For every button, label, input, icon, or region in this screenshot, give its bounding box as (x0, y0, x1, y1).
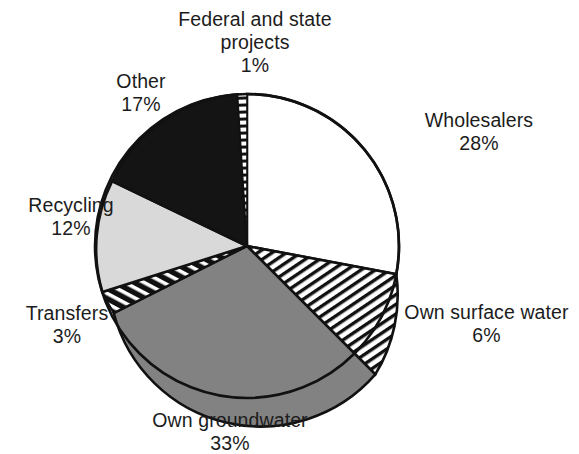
pie-label-wholesalers-name: Wholesalers (390, 109, 568, 132)
pie-label-recycling-name: Recycling (0, 194, 142, 217)
pie-label-recycling-value: 12% (0, 217, 142, 240)
pie-label-federal-line1: Federal and state (165, 8, 345, 31)
pie-label-federal-line2: projects (165, 31, 345, 54)
pie-slice-wholesalers[interactable] (247, 94, 399, 274)
pie-label-wholesalers: Wholesalers 28% (390, 109, 568, 155)
pie-label-own-surface-water: Own surface water 6% (394, 301, 579, 347)
pie-label-transfers-name: Transfers (0, 302, 134, 325)
pie-label-other: Other 17% (86, 70, 196, 116)
pie-label-transfers-value: 3% (0, 325, 134, 348)
pie-label-groundwater-name: Own groundwater (94, 409, 366, 432)
pie-label-recycling: Recycling 12% (0, 194, 142, 240)
pie-label-surface-name: Own surface water (394, 301, 579, 324)
pie-label-groundwater-value: 33% (94, 432, 366, 454)
pie-label-wholesalers-value: 28% (390, 132, 568, 155)
pie-label-own-groundwater: Own groundwater 33% (94, 409, 366, 454)
pie-label-surface-value: 6% (394, 324, 579, 347)
pie-label-federal-and-state-projects: Federal and state projects 1% (165, 8, 345, 77)
pie-label-other-name: Other (86, 70, 196, 93)
pie-label-other-value: 17% (86, 93, 196, 116)
pie-chart-figure: Federal and state projects 1% Other 17% … (0, 0, 579, 454)
pie-label-transfers: Transfers 3% (0, 302, 134, 348)
